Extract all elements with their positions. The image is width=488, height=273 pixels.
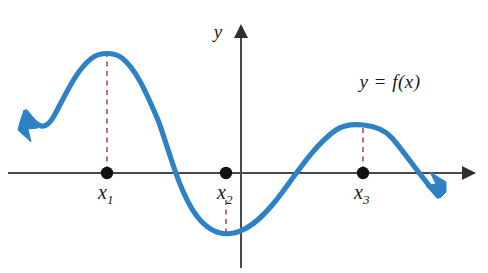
labels-group: y x1 x2 x3 y = f(x) — [97, 21, 421, 207]
root-label-x2-subscript: 2 — [226, 192, 233, 207]
root-label-x2-letter: x — [216, 181, 226, 203]
curve-left-arrowhead-icon — [18, 110, 38, 142]
root-label-x1-letter: x — [97, 181, 107, 203]
function-equation-label: y = f(x) — [357, 71, 420, 93]
curve-right-arrowhead-icon — [426, 172, 446, 198]
root-dot-x2[interactable] — [220, 167, 232, 179]
y-axis-label: y — [212, 21, 223, 42]
root-label-x3-letter: x — [353, 181, 363, 203]
guide-lines-group — [107, 54, 363, 233]
root-label-x3-subscript: 3 — [362, 192, 370, 207]
graph-canvas: y x1 x2 x3 y = f(x) — [0, 0, 488, 273]
root-dot-x1[interactable] — [101, 167, 113, 179]
y-axis-arrowhead-icon — [234, 24, 248, 38]
root-label-x3: x3 — [353, 181, 370, 207]
root-label-x1: x1 — [97, 181, 113, 207]
x-axis-arrowhead-icon — [462, 166, 476, 180]
root-label-x2: x2 — [216, 181, 233, 207]
root-label-x1-subscript: 1 — [107, 192, 114, 207]
root-dot-x3[interactable] — [357, 167, 369, 179]
function-graph-figure: y x1 x2 x3 y = f(x) — [0, 0, 488, 273]
